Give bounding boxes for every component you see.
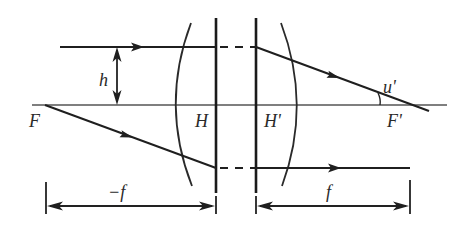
label-principal-plane-h-prime: H' [263, 111, 282, 131]
label-principal-plane-h: H [194, 111, 209, 131]
label-back-focal-length: f [326, 182, 334, 202]
label-image-angle: u' [383, 77, 397, 97]
refracted-ray-to-back-focus [256, 47, 429, 111]
angle-arc [378, 93, 380, 105]
label-front-focus: F [28, 111, 41, 131]
label-front-focal-length: −f [108, 182, 128, 202]
label-back-focus: F' [386, 111, 403, 131]
optics-diagram: F H H' F' h u' −f f [0, 0, 469, 230]
label-ray-height: h [99, 70, 108, 90]
